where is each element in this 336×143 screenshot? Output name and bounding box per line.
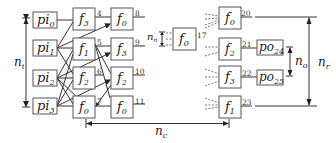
output-node-po25: po25 xyxy=(257,70,284,86)
svg-text:4: 4 xyxy=(97,9,102,18)
function-node-23: f1 23 xyxy=(219,96,252,118)
svg-text:nc: nc xyxy=(155,124,168,140)
dimension-nc: nc xyxy=(86,119,229,140)
svg-text:10: 10 xyxy=(135,67,145,76)
function-node-21: f2 21 xyxy=(219,38,252,60)
column-1-nodes: f3 4 f1 5 f2 6 f0 7 xyxy=(73,8,102,118)
input-nodes: pi0 pi1 pi2 pi3 xyxy=(33,12,57,115)
svg-text:5: 5 xyxy=(97,38,102,47)
output-node-po24: po24 xyxy=(257,40,284,56)
cgp-diagram: pi0 pi1 pi2 pi3 f3 4 f1 5 f2 6 xyxy=(0,0,336,143)
svg-text:nn: nn xyxy=(147,31,157,43)
input-node-pi3: pi3 xyxy=(33,98,57,115)
svg-text:ni: ni xyxy=(14,55,25,71)
svg-text:9: 9 xyxy=(135,38,140,47)
svg-text:11: 11 xyxy=(135,97,145,106)
column-2-nodes: f0 8 f3 9 f2 10 f0 11 xyxy=(111,8,145,118)
last-column-nodes: f0 20 f2 21 f3 22 f1 23 xyxy=(219,7,252,118)
output-nodes: po24 po25 xyxy=(257,40,284,86)
svg-text:nr: nr xyxy=(318,55,331,71)
function-node-20: f0 20 xyxy=(219,7,251,29)
function-node-7: f0 7 xyxy=(73,96,102,118)
dimension-nr: nr xyxy=(255,17,331,106)
function-node-22: f3 22 xyxy=(219,66,252,88)
svg-text:21: 21 xyxy=(242,40,252,49)
svg-text:no: no xyxy=(295,54,308,70)
dimension-nn: nn xyxy=(147,31,165,46)
function-node-11: f0 11 xyxy=(111,96,145,118)
function-node-8: f0 8 xyxy=(111,8,140,30)
function-node-10: f2 10 xyxy=(111,67,145,89)
svg-text:22: 22 xyxy=(242,69,252,78)
svg-text:7: 7 xyxy=(97,97,102,106)
input-node-pi1: pi1 xyxy=(33,40,57,57)
input-node-pi0: pi0 xyxy=(33,12,57,29)
dimension-no: no xyxy=(286,47,308,76)
svg-text:6: 6 xyxy=(97,67,102,76)
svg-text:8: 8 xyxy=(135,9,140,18)
function-node-9: f3 9 xyxy=(111,38,140,60)
function-node-4: f3 4 xyxy=(73,8,102,30)
input-node-pi2: pi2 xyxy=(33,70,57,87)
dimension-ni: ni xyxy=(14,18,30,107)
svg-text:23: 23 xyxy=(242,98,252,107)
function-node-17: f0 17 xyxy=(173,28,207,50)
svg-text:20: 20 xyxy=(241,9,251,18)
svg-text:17: 17 xyxy=(197,31,207,40)
